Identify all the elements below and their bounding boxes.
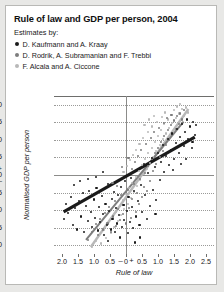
data-point xyxy=(134,241,136,243)
data-point xyxy=(129,159,131,161)
data-point xyxy=(157,147,159,149)
data-point xyxy=(126,210,128,212)
data-point xyxy=(167,129,169,131)
data-point xyxy=(144,158,146,160)
data-point xyxy=(154,166,156,168)
data-point xyxy=(162,138,164,140)
data-point xyxy=(179,103,181,105)
data-point xyxy=(164,111,166,113)
data-point xyxy=(122,199,124,201)
data-point xyxy=(140,149,142,151)
data-point xyxy=(114,200,116,202)
x-tick xyxy=(174,254,175,257)
data-point xyxy=(111,182,113,184)
data-point xyxy=(140,184,142,186)
data-point xyxy=(159,156,161,158)
data-point xyxy=(135,149,137,151)
data-point xyxy=(145,143,147,145)
data-point xyxy=(191,147,193,149)
data-point xyxy=(138,170,140,172)
data-point xyxy=(195,124,197,126)
data-point xyxy=(95,187,97,189)
data-point xyxy=(181,118,183,120)
data-point xyxy=(127,189,129,191)
x-tick xyxy=(206,254,207,257)
legend-item-alcala-ciccone: F. Alcala and A. Ciccone xyxy=(15,62,100,71)
data-point xyxy=(119,205,121,207)
data-point xyxy=(144,172,146,174)
data-point xyxy=(85,205,87,207)
data-point xyxy=(185,106,187,108)
x-tick xyxy=(78,254,79,257)
data-point xyxy=(146,190,148,192)
data-point xyxy=(119,236,121,238)
data-point xyxy=(91,231,93,233)
data-point xyxy=(105,237,107,239)
data-point xyxy=(110,228,112,230)
data-point xyxy=(132,154,134,156)
data-point xyxy=(158,127,160,129)
data-point xyxy=(135,215,137,217)
data-point xyxy=(102,228,104,230)
data-point xyxy=(162,150,164,152)
data-point xyxy=(76,228,78,230)
data-point xyxy=(187,111,189,113)
data-point xyxy=(120,186,122,188)
data-point xyxy=(91,226,93,228)
data-point xyxy=(117,208,119,210)
data-point xyxy=(175,142,177,144)
data-point xyxy=(147,131,149,133)
data-point xyxy=(165,155,167,157)
data-point xyxy=(146,218,148,220)
data-point xyxy=(107,183,109,185)
legend-label: D. Rodrik, A. Subramanian and F. Trebbi xyxy=(23,51,152,60)
data-point xyxy=(95,223,97,225)
data-point xyxy=(131,198,133,200)
data-point xyxy=(79,180,81,182)
data-point xyxy=(153,131,155,133)
data-point xyxy=(147,152,149,154)
x-tick xyxy=(158,254,159,257)
data-point xyxy=(187,138,189,140)
data-point xyxy=(127,203,129,205)
data-point xyxy=(184,131,186,133)
data-point xyxy=(102,171,104,173)
data-point xyxy=(136,185,138,187)
data-point xyxy=(130,217,132,219)
data-point xyxy=(141,196,143,198)
data-point xyxy=(78,200,80,202)
data-point xyxy=(131,206,133,208)
y-tick-label: 0.5 xyxy=(0,188,2,197)
legend-marker-icon xyxy=(15,64,19,68)
data-point xyxy=(74,207,76,209)
data-point xyxy=(132,227,134,229)
data-point xyxy=(176,128,178,130)
data-point xyxy=(144,194,146,196)
data-point xyxy=(117,194,119,196)
data-point xyxy=(104,212,106,214)
y-tick-label: 1.0 xyxy=(0,135,2,144)
data-point xyxy=(83,231,85,233)
data-point xyxy=(143,124,145,126)
data-point xyxy=(141,211,143,213)
data-point xyxy=(67,212,69,214)
y-tick-label: 0.5 xyxy=(0,152,2,161)
data-point xyxy=(116,185,118,187)
data-point xyxy=(152,170,154,172)
data-point xyxy=(163,171,165,173)
data-point xyxy=(153,115,155,117)
data-point xyxy=(136,169,138,171)
data-point xyxy=(106,224,108,226)
y-tick-label: 1.5 xyxy=(0,223,2,232)
legend-item-kaufmann-kraay: D. Kaufmann and A. Kraay xyxy=(15,40,108,49)
data-point xyxy=(161,116,163,118)
x-tick xyxy=(190,254,191,257)
estimates-label: Estimates by: xyxy=(14,28,58,37)
legend-marker-icon xyxy=(15,42,19,46)
data-point xyxy=(116,222,118,224)
data-point xyxy=(94,217,96,219)
y-tick-label: 2.0 xyxy=(0,100,2,109)
data-point xyxy=(154,152,156,154)
legend-label: D. Kaufmann and A. Kraay xyxy=(23,40,108,49)
data-point xyxy=(97,229,99,231)
